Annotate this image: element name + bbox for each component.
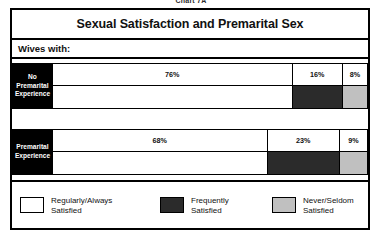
legend-swatch-frequently-icon [160,197,184,213]
chart-title-band: Sexual Satisfaction and Premarital Sex [12,10,368,40]
bar-segment-regularly [53,86,292,108]
bar-value-never: 8% [342,64,367,85]
legend-label-line: Never/Seldom [303,196,354,207]
category-label-line: Experience [15,90,50,99]
chart-subhead: Wives with: [12,43,70,54]
chart-plot-area: No Premarital Experience 76% 16% 8% [12,59,368,182]
legend-label-never: Never/Seldom Satisfied [303,196,354,217]
legend-swatch-regularly-icon [20,197,44,213]
page-title: Sexual Satisfaction and Premarital Sex [77,17,304,31]
bar-value-labels-row: 76% 16% 8% [53,64,367,86]
legend-label-regularly: Regularly/Always Satisfied [51,196,112,217]
category-label-no-premarital-experience: No Premarital Experience [12,63,53,109]
bar-value-regularly: 76% [53,64,292,85]
category-label-premarital-experience: Premarital Experience [12,129,53,175]
bar-segments-row [53,152,367,174]
category-label-line: Premarital [16,82,48,91]
bar-group-no-premarital-experience: No Premarital Experience 76% 16% 8% [12,63,368,109]
bar-value-frequently: 16% [292,64,342,85]
legend-label-line: Regularly/Always [51,196,112,207]
bar-segment-never [339,152,367,174]
bar-value-labels-row: 68% 23% 9% [53,130,367,152]
chart-frame: Sexual Satisfaction and Premarital Sex W… [10,8,370,230]
bar-value-never: 9% [339,130,367,151]
legend-label-frequently: Frequently Satisfied [191,196,229,217]
bar-segment-frequently [267,152,339,174]
bar-group-premarital-experience: Premarital Experience 68% 23% 9% [12,129,368,175]
bar-segment-regularly [53,152,267,174]
bar-segment-frequently [292,86,342,108]
legend-label-line: Satisfied [51,206,112,217]
bar-segment-never [342,86,367,108]
legend-item-never-seldom-satisfied: Never/Seldom Satisfied [272,196,382,217]
category-label-line: No [28,73,37,82]
category-label-line: Premarital [16,143,48,152]
legend-label-line: Satisfied [191,206,229,217]
bar-segments-row [53,86,367,108]
figure-caption: Chart 7A [0,0,382,3]
chart-subhead-band: Wives with: [12,40,368,59]
stacked-bar-premarital-experience: 68% 23% 9% [53,129,368,175]
bar-value-frequently: 23% [267,130,339,151]
legend-label-line: Frequently [191,196,229,207]
chart-legend: Regularly/Always Satisfied Frequently Sa… [12,182,368,230]
legend-item-frequently-satisfied: Frequently Satisfied [160,196,272,217]
legend-item-regularly-always-satisfied: Regularly/Always Satisfied [20,196,160,217]
legend-label-line: Satisfied [303,206,354,217]
category-label-line: Experience [15,152,50,161]
bar-value-regularly: 68% [53,130,267,151]
stacked-bar-no-premarital-experience: 76% 16% 8% [53,63,368,109]
legend-swatch-never-icon [272,197,296,213]
